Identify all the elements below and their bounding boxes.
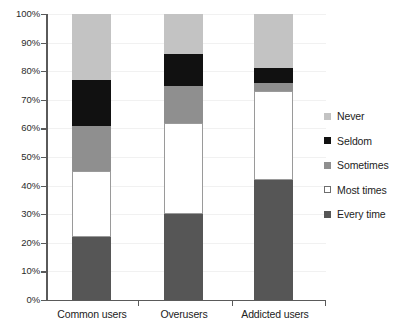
y-tick-label-100: 100% <box>0 9 40 19</box>
y-tick-mark-100 <box>41 14 46 15</box>
legend-swatch-icon-seldom <box>324 137 331 144</box>
segment-seldom <box>164 54 203 85</box>
legend-label-seldom: Seldom <box>337 135 372 147</box>
segment-seldom <box>254 68 293 82</box>
plot-area <box>48 14 326 300</box>
segment-never <box>72 14 111 80</box>
segment-sometimes <box>164 86 203 123</box>
segment-every-time <box>72 237 111 300</box>
x-axis-label-overusers: Overusers <box>160 308 207 320</box>
legend-label-most-times: Most times <box>337 184 387 196</box>
bar-addicted-users[interactable] <box>254 14 293 300</box>
legend: Never Seldom Sometimes Most times Every … <box>324 104 409 227</box>
y-axis-line <box>46 14 48 301</box>
y-tick-label-60: 60% <box>0 123 40 133</box>
segment-seldom <box>72 80 111 126</box>
y-tick-mark-50 <box>41 157 46 158</box>
x-axis-label-addicted-users: Addicted users <box>241 308 308 320</box>
y-tick-label-10: 10% <box>0 266 40 276</box>
legend-label-sometimes: Sometimes <box>337 159 389 171</box>
x-axis-label-common-users: Common users <box>57 308 126 320</box>
y-tick-mark-60 <box>41 128 46 129</box>
y-tick-label-90: 90% <box>0 38 40 48</box>
x-tick-mark-1 <box>138 301 139 306</box>
y-tick-mark-10 <box>41 271 46 272</box>
legend-swatch-icon-every-time <box>324 211 331 218</box>
segment-most-times <box>254 91 293 180</box>
legend-item-seldom[interactable]: Seldom <box>324 129 409 154</box>
y-tick-mark-30 <box>41 214 46 215</box>
segment-every-time <box>254 180 293 300</box>
x-axis-line <box>46 300 326 302</box>
stacked-bar-chart: 100% 90% 80% 70% 60% 50% 40% 30% 20% 10%… <box>0 0 409 334</box>
segment-most-times <box>72 171 111 237</box>
y-tick-label-0: 0% <box>0 295 40 305</box>
segment-most-times <box>164 123 203 215</box>
y-tick-mark-80 <box>41 71 46 72</box>
legend-swatch-icon-sometimes <box>324 162 331 169</box>
legend-swatch-icon-never <box>324 113 331 120</box>
segment-never <box>164 14 203 54</box>
segment-sometimes <box>254 83 293 92</box>
segment-sometimes <box>72 126 111 172</box>
y-tick-label-20: 20% <box>0 238 40 248</box>
legend-item-sometimes[interactable]: Sometimes <box>324 153 409 178</box>
y-tick-label-70: 70% <box>0 95 40 105</box>
x-tick-mark-2 <box>232 301 233 306</box>
y-tick-mark-20 <box>41 243 46 244</box>
x-tick-mark-3 <box>325 301 326 306</box>
y-tick-label-80: 80% <box>0 66 40 76</box>
y-tick-mark-0 <box>41 300 46 301</box>
bar-common-users[interactable] <box>72 14 111 300</box>
y-tick-label-40: 40% <box>0 181 40 191</box>
legend-swatch-icon-most-times <box>324 186 331 193</box>
legend-item-most-times[interactable]: Most times <box>324 178 409 203</box>
y-tick-label-30: 30% <box>0 209 40 219</box>
segment-every-time <box>164 214 203 300</box>
legend-label-never: Never <box>337 110 365 122</box>
legend-label-every-time: Every time <box>337 208 386 220</box>
y-axis-labels: 100% 90% 80% 70% 60% 50% 40% 30% 20% 10%… <box>0 8 40 300</box>
y-tick-mark-90 <box>41 43 46 44</box>
legend-item-never[interactable]: Never <box>324 104 409 129</box>
y-tick-mark-40 <box>41 186 46 187</box>
bar-overusers[interactable] <box>164 14 203 300</box>
y-tick-label-50: 50% <box>0 152 40 162</box>
y-tick-mark-70 <box>41 100 46 101</box>
legend-item-every-time[interactable]: Every time <box>324 202 409 227</box>
segment-never <box>254 14 293 68</box>
